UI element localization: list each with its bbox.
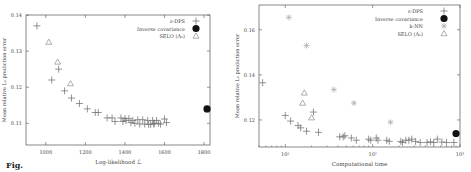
y-tick-label: 0.14 xyxy=(11,12,22,18)
circle-marker xyxy=(203,105,210,112)
plus-marker xyxy=(310,109,317,116)
legend-label: ε-DPS xyxy=(408,8,424,14)
plus-marker xyxy=(157,121,164,128)
series-selo- xyxy=(300,90,315,120)
plus-marker xyxy=(424,139,431,146)
chart-left-svg: 0.110.120.130.1410001200140016001800Log-… xyxy=(0,0,235,172)
series-inverse-covariance xyxy=(452,130,459,137)
plus-marker xyxy=(95,109,102,116)
asterisk-marker xyxy=(351,100,357,106)
plus-marker xyxy=(434,136,441,143)
x-tick-label: 1600 xyxy=(158,149,171,155)
chart-right-svg: 0.120.140.1610²10³10⁴Computational timeM… xyxy=(235,0,471,172)
plus-marker xyxy=(161,116,168,123)
triangle-marker xyxy=(68,81,74,86)
plus-marker xyxy=(55,66,62,73)
y-tick-label: 0.16 xyxy=(244,27,255,33)
series--dps xyxy=(33,22,170,128)
x-tick-label: 1200 xyxy=(79,149,92,155)
chart-loglikelihood: 0.110.120.130.1410001200140016001800Log-… xyxy=(0,0,235,172)
asterisk-marker xyxy=(387,119,393,125)
legend-label: SELO (Λ₀) xyxy=(397,31,423,37)
plus-marker xyxy=(438,139,445,146)
triangle-marker xyxy=(193,33,199,38)
y-axis-label: Mean relative L₁ prediction error xyxy=(1,37,8,122)
asterisk-marker xyxy=(286,14,292,20)
triangle-marker xyxy=(55,59,61,64)
plus-marker xyxy=(430,139,437,146)
legend-label: Inverse covariance xyxy=(375,16,423,22)
plus-marker xyxy=(131,120,138,127)
x-tick-label: 1800 xyxy=(198,149,211,155)
x-tick-label: 10² xyxy=(281,151,289,157)
x-tick-label: 10³ xyxy=(368,151,376,157)
y-tick-label: 0.12 xyxy=(244,117,255,123)
triangle-marker xyxy=(301,90,307,95)
y-tick-label: 0.12 xyxy=(11,84,22,90)
x-axis-label: Log-likelihood ℒ xyxy=(95,159,141,166)
plus-marker xyxy=(259,79,266,86)
x-tick-label: 10⁴ xyxy=(456,151,464,157)
series-selo- xyxy=(46,39,74,86)
legend-label: Inverse covariance xyxy=(137,26,185,32)
plus-marker xyxy=(153,117,160,124)
asterisk-marker xyxy=(304,43,310,49)
plus-marker xyxy=(340,133,347,140)
plus-marker xyxy=(163,119,170,126)
y-tick-label: 0.11 xyxy=(11,120,22,126)
plot-frame xyxy=(259,5,460,147)
plus-marker xyxy=(61,87,68,94)
plus-marker xyxy=(341,132,348,139)
legend: ε-DPSInverse covarianceSELO (Λ₀) xyxy=(137,18,200,40)
plus-marker xyxy=(76,100,83,107)
plus-marker xyxy=(397,138,404,145)
plus-marker xyxy=(112,118,119,125)
figure-caption: Fig. xyxy=(6,160,23,170)
series-inverse-covariance xyxy=(203,105,210,112)
circle-marker xyxy=(440,15,447,22)
plus-marker xyxy=(287,118,294,125)
plus-marker xyxy=(303,128,310,135)
plus-marker xyxy=(282,112,289,119)
x-tick-label: 1000 xyxy=(39,149,52,155)
circle-marker xyxy=(452,130,459,137)
plus-marker xyxy=(427,138,434,145)
plus-marker xyxy=(193,18,200,25)
plus-marker xyxy=(119,118,126,125)
y-tick-label: 0.13 xyxy=(11,48,22,54)
legend-label: SELO (Λ₀) xyxy=(159,33,185,39)
plus-marker xyxy=(139,116,146,123)
plus-marker xyxy=(441,8,448,15)
plus-marker xyxy=(150,121,157,128)
series--dps xyxy=(259,79,457,146)
plus-marker xyxy=(443,139,450,146)
plus-marker xyxy=(450,139,457,146)
chart-computational-time: 0.120.140.1610²10³10⁴Computational timeM… xyxy=(235,0,471,172)
legend-label: ε-DPS xyxy=(170,18,186,24)
legend: ε-DPSInverse covariancek-NNSELO (Λ₀) xyxy=(375,8,448,37)
asterisk-marker xyxy=(441,23,447,29)
plus-marker xyxy=(33,22,40,29)
y-axis-label: Mean relative L₁ prediction error xyxy=(235,33,241,118)
legend-label: k-NN xyxy=(410,23,424,29)
x-axis-label: Computational time xyxy=(332,161,387,168)
plus-marker xyxy=(48,77,55,84)
y-tick-label: 0.14 xyxy=(244,72,255,78)
triangle-marker xyxy=(441,31,447,36)
plus-marker xyxy=(155,120,162,127)
triangle-marker xyxy=(46,39,52,44)
series-k-nn xyxy=(286,14,394,125)
plus-marker xyxy=(84,105,91,112)
plus-marker xyxy=(125,115,132,122)
circle-marker xyxy=(192,25,199,32)
x-tick-label: 1400 xyxy=(119,149,132,155)
asterisk-marker xyxy=(331,87,337,93)
plus-marker xyxy=(68,95,75,102)
plus-marker xyxy=(109,114,116,121)
plus-marker xyxy=(315,129,322,136)
plus-marker xyxy=(417,139,424,146)
triangle-marker xyxy=(300,100,306,105)
